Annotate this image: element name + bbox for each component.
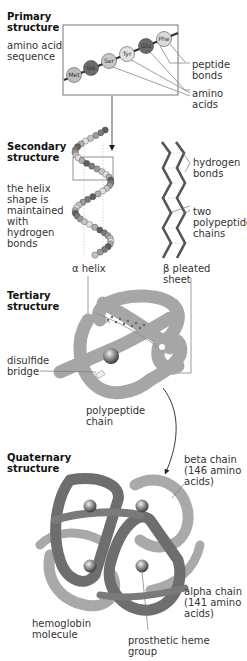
secondary-heading: Secondary structure — [7, 141, 66, 163]
tertiary-to-quaternary-arrow — [163, 388, 176, 472]
secondary-description: the helix shape is maintained with hydro… — [7, 183, 64, 249]
alpha-helix-illustration — [72, 127, 114, 258]
heme-sphere-1 — [84, 500, 97, 513]
amino-acid-ser: Ser — [104, 57, 115, 64]
hemoglobin-ribbons — [40, 479, 200, 610]
tertiary-heading: Tertiary structure — [7, 290, 59, 312]
beta-strand-2 — [176, 142, 185, 258]
label-two-polypeptide-chains: two polypeptide chains — [193, 206, 247, 239]
label-alpha-helix: α helix — [72, 263, 106, 274]
disulfide-bridge-mark — [96, 370, 105, 378]
label-disulfide-bridge: disulfide bridge — [7, 355, 49, 377]
heme-sphere-2 — [136, 500, 149, 513]
amino-acid-met: Met — [68, 71, 80, 78]
label-hemoglobin-molecule: hemoglobin molecule — [32, 618, 91, 640]
label-alpha-chain: alpha chain (141 amino acids) — [184, 586, 242, 619]
amino-acid-phe: Phe — [158, 35, 169, 42]
heme-sphere-3 — [84, 560, 97, 573]
helix-beads — [72, 127, 114, 258]
amino-acid-tyr: Tyr — [122, 50, 132, 58]
primary-heading: Primary structure — [7, 11, 59, 33]
label-hydrogen-bonds: hydrogen bonds — [193, 157, 240, 179]
helix-bead — [92, 252, 98, 258]
amino-acid-iso: Iso — [87, 64, 96, 71]
label-beta-chain: beta chain (146 amino acids) — [184, 454, 241, 487]
heme-sphere-tertiary — [103, 348, 119, 364]
tertiary-structure-illustration — [40, 296, 181, 472]
beta-sheet-illustration — [162, 142, 190, 258]
quaternary-structure-illustration — [40, 479, 200, 630]
primary-structure-illustration: Met Iso Ser Tyr Glu Phe — [63, 25, 190, 148]
label-prosthetic-heme-group: prosthetic heme group — [128, 635, 210, 657]
heme-sphere-4 — [136, 560, 149, 573]
label-beta-pleated-sheet: β pleated sheet — [163, 263, 210, 285]
beta-strand-1 — [162, 142, 171, 258]
ribbon-loop-hole — [159, 344, 165, 350]
primary-description: amino acid sequence — [7, 40, 62, 62]
quaternary-heading: Quaternary structure — [7, 452, 71, 474]
amino-acid-glu: Glu — [141, 42, 151, 49]
label-peptide-bonds: peptide bonds — [192, 59, 230, 81]
label-polypeptide-chain: polypeptide chain — [86, 405, 145, 427]
label-amino-acids: amino acids — [192, 88, 223, 110]
